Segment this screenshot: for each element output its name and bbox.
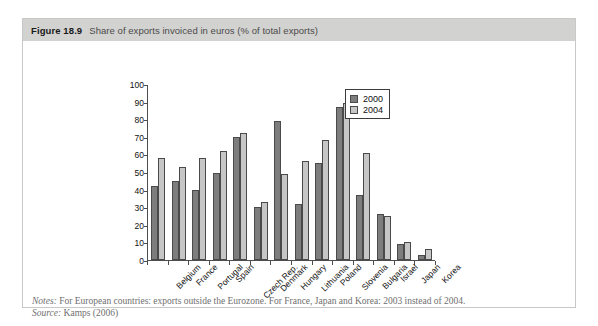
bar-2004-belgium (158, 158, 165, 260)
y-tick-mark (144, 103, 147, 104)
bar-groups (148, 85, 435, 260)
bar-group (271, 85, 292, 260)
bar-2004-spain (220, 151, 227, 260)
y-tick-mark (144, 155, 147, 156)
bar-2000-israel (377, 214, 384, 260)
bar-2004-israel (384, 216, 391, 260)
y-axis-tick-labels: 0102030405060708090100 (120, 85, 144, 261)
bar-2004-japan (404, 242, 411, 260)
legend-label-2004: 2004 (363, 105, 383, 115)
bar-2004-hungary (281, 174, 288, 260)
bar-group (312, 85, 333, 260)
bar-2000-bulgaria (356, 195, 363, 260)
bar-2004-slovenia (343, 103, 350, 260)
y-tick-label: 10 (135, 238, 144, 248)
bar-group (251, 85, 272, 260)
bar-2004-poland (322, 140, 329, 260)
bar-group (169, 85, 190, 260)
figure-source: Source: Kamps (2006) (32, 308, 552, 320)
bar-2004-denmark (261, 202, 268, 260)
source-text: Kamps (2006) (64, 308, 119, 318)
bar-2004-bulgaria (363, 153, 370, 260)
figure-footer: Notes: For European countries: exports o… (32, 296, 552, 319)
chart-legend: 2000 2004 (345, 89, 390, 119)
bar-2000-spain (213, 173, 220, 260)
y-tick-mark (144, 120, 147, 121)
y-tick-label: 50 (135, 168, 144, 178)
y-tick-mark (144, 226, 147, 227)
y-tick-label: 20 (135, 221, 144, 231)
bar-2004-korea (425, 249, 432, 260)
y-tick-mark (144, 191, 147, 192)
y-tick-mark (144, 173, 147, 174)
figure-title: Share of exports invoiced in euros (% of… (89, 25, 318, 36)
plot-area: 0102030405060708090100 (147, 85, 435, 261)
bar-group (210, 85, 231, 260)
notes-label: Notes: (32, 296, 57, 306)
bar-2000-lithuania (295, 204, 302, 260)
y-tick-label: 40 (135, 186, 144, 196)
y-tick-label: 100 (130, 80, 144, 90)
bar-2000-korea (418, 255, 425, 260)
figure-number: Figure 18.9 (31, 25, 82, 36)
y-tick-label: 80 (135, 115, 144, 125)
bar-group (189, 85, 210, 260)
bar-2000-japan (397, 244, 404, 260)
y-tick-label: 90 (135, 98, 144, 108)
bar-2000-denmark (254, 207, 261, 260)
bar-group (394, 85, 415, 260)
legend-item-2004: 2004 (350, 104, 383, 115)
chart-area: 0102030405060708090100 BelgiumFrancePort… (23, 41, 577, 309)
bar-2000-czech-rep (233, 137, 240, 260)
bar-group (148, 85, 169, 260)
bar-2000-hungary (274, 121, 281, 260)
figure-caption-bar: Figure 18.9 Share of exports invoiced in… (23, 19, 575, 41)
y-tick-mark (144, 85, 147, 86)
legend-swatch-2004 (350, 106, 358, 114)
bar-2000-france (172, 181, 179, 260)
y-tick-label: 30 (135, 203, 144, 213)
y-tick-mark (144, 208, 147, 209)
bar-2004-lithuania (302, 161, 309, 260)
figure-page: Figure 18.9 Share of exports invoiced in… (0, 0, 598, 326)
bar-2004-portugal (199, 158, 206, 260)
source-label: Source: (32, 308, 61, 318)
legend-item-2000: 2000 (350, 93, 383, 104)
bar-2000-slovenia (336, 107, 343, 260)
x-category-label: Japan (419, 262, 442, 285)
figure-notes: Notes: For European countries: exports o… (32, 296, 552, 308)
bar-2000-poland (315, 163, 322, 260)
bar-2000-portugal (192, 190, 199, 260)
legend-swatch-2000 (350, 95, 358, 103)
bar-group (415, 85, 436, 260)
y-tick-label: 70 (135, 133, 144, 143)
bar-2000-belgium (151, 186, 158, 260)
figure-container: Figure 18.9 Share of exports invoiced in… (22, 18, 576, 308)
bar-2004-czech-rep (240, 133, 247, 260)
bar-group (292, 85, 313, 260)
legend-label-2000: 2000 (363, 94, 383, 104)
x-category-label: Korea (439, 262, 462, 285)
bar-group (230, 85, 251, 260)
y-tick-mark (144, 243, 147, 244)
y-tick-label: 60 (135, 150, 144, 160)
y-tick-mark (144, 138, 147, 139)
bar-2004-france (179, 167, 186, 260)
notes-text: For European countries: exports outside … (59, 296, 465, 306)
